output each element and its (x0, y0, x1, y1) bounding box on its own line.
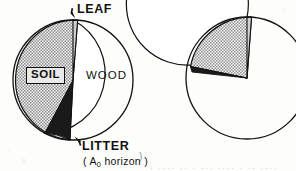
pie-charts-canvas (0, 0, 296, 171)
horizon-prefix: ( A (83, 155, 97, 167)
right-pie-group (126, 0, 296, 139)
leaf-callout-arrow-icon (70, 8, 75, 18)
caption-fragment-left: ) (139, 152, 143, 162)
soil-label: SOIL (26, 67, 65, 84)
wood-label: WOOD (86, 70, 127, 82)
leaf-label: LEAF (77, 3, 112, 16)
caption-fragment-bottom: · ···· ·· · ··· ···· · ·· ···· (150, 164, 278, 171)
litter-label: LITTER (82, 140, 129, 153)
pie-chart-figure: LEAF SOIL WOOD LITTER ( A0 horizon ) ) ·… (0, 0, 296, 171)
right-pie-slice-leaf (247, 17, 252, 78)
litter-callout-arrow-icon (75, 137, 82, 146)
